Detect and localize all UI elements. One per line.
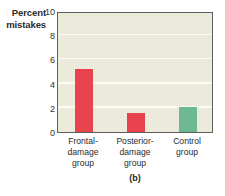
x-axis-category-label-line: Frontal- xyxy=(57,136,109,147)
x-axis-category-label: Frontal-damagegroup xyxy=(57,136,109,169)
bar xyxy=(75,69,93,132)
plot-area xyxy=(57,12,213,133)
bar xyxy=(179,107,197,132)
bar-chart-figure: Percent mistakes 0246810 Frontal-damageg… xyxy=(0,0,225,196)
x-axis-category-label-line: group xyxy=(109,158,161,169)
x-axis-category-label: Controlgroup xyxy=(161,136,213,158)
y-axis-tick-label: 2 xyxy=(38,104,55,113)
x-axis-category-labels: Frontal-damagegroupPosterior-damagegroup… xyxy=(57,136,213,172)
x-axis-category-label-line: Control xyxy=(161,136,213,147)
x-axis-category-label-line: damage xyxy=(109,147,161,158)
y-axis-tick-label: 0 xyxy=(38,129,55,138)
gridline xyxy=(58,34,212,36)
gridline xyxy=(58,58,212,60)
x-axis-category-label-line: damage xyxy=(57,147,109,158)
y-axis-tick-label: 8 xyxy=(38,32,55,41)
x-axis-category-label-line: group xyxy=(161,147,213,158)
x-axis-category-label: Posterior-damagegroup xyxy=(109,136,161,169)
x-axis-category-label-line: Posterior- xyxy=(109,136,161,147)
figure-caption: (b) xyxy=(57,173,213,183)
y-axis-tick-label: 6 xyxy=(38,56,55,65)
y-axis-tick-label: 4 xyxy=(38,80,55,89)
y-axis-tick-labels: 0246810 xyxy=(38,0,55,196)
bar xyxy=(127,113,145,132)
y-axis-tick-label: 10 xyxy=(38,8,55,17)
x-axis-category-label-line: group xyxy=(57,158,109,169)
